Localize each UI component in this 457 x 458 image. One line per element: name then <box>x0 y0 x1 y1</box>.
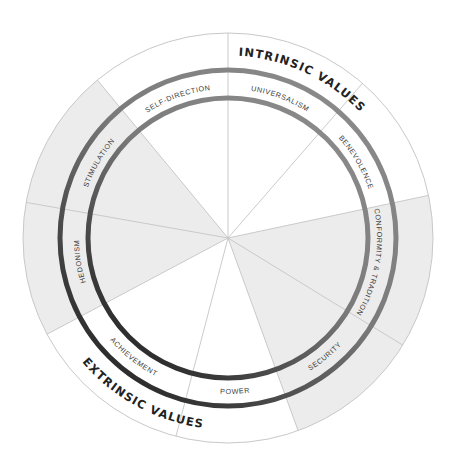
values-wheel: UNIVERSALISMBENEVOLENCECONFORMITY & TRAD… <box>0 0 457 458</box>
segment-label-power: POWER <box>220 385 250 396</box>
values-circle-diagram: UNIVERSALISMBENEVOLENCECONFORMITY & TRAD… <box>0 0 457 458</box>
